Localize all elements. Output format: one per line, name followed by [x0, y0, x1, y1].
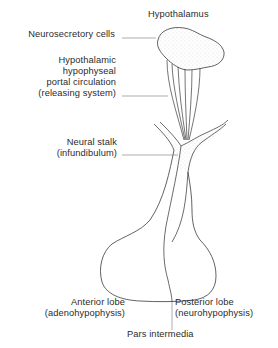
- portal-vessels: [167, 60, 200, 140]
- label-hypothalamus: Hypothalamus: [148, 9, 209, 20]
- hypothalamus-shape: [157, 28, 224, 71]
- pituitary-outline: [100, 150, 216, 302]
- label-stalk-line2: (infundibulum): [57, 148, 117, 159]
- label-posterior-lobe: Posterior lobe (neurohypophysis): [175, 297, 253, 319]
- label-anterior-line2: (adenohypophysis): [45, 308, 125, 319]
- label-neurosecretory-cells: Neurosecretory cells: [28, 29, 115, 40]
- label-portal-line2: hypophyseal: [38, 66, 116, 77]
- label-pars-intermedia: Pars intermedia: [127, 329, 194, 340]
- label-posterior-line1: Posterior lobe: [175, 297, 253, 308]
- label-posterior-line2: (neurohypophysis): [175, 308, 253, 319]
- label-anterior-lobe: Anterior lobe (adenohypophysis): [45, 297, 125, 319]
- label-portal-line3: portal circulation: [38, 77, 116, 88]
- neural-stalk-fill: [159, 122, 228, 170]
- label-neural-stalk: Neural stalk (infundibulum): [57, 137, 117, 159]
- label-portal-line4: (releasing system): [38, 88, 116, 99]
- label-portal-circulation: Hypothalamic hypophyseal portal circulat…: [38, 55, 116, 99]
- label-portal-line1: Hypothalamic: [38, 55, 116, 66]
- label-stalk-line1: Neural stalk: [57, 137, 117, 148]
- pituitary-diagram: [0, 0, 278, 348]
- label-anterior-line1: Anterior lobe: [45, 297, 125, 308]
